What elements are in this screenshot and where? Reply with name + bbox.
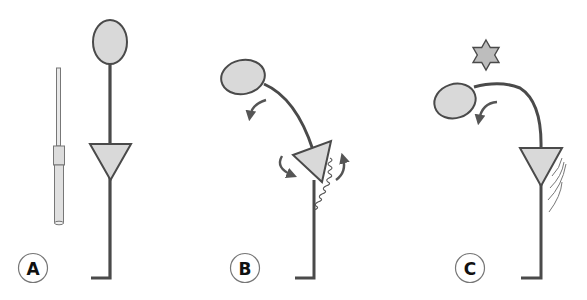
diagram-canvas: A B [0,0,587,300]
svg-text:A: A [26,259,40,279]
stem-c [474,84,541,278]
curved-arrow-icon [250,100,266,116]
curved-arrow-icon [336,158,344,180]
panel-b: B [218,56,344,283]
head-oval-c [430,78,480,123]
hinge-triangle-a [90,144,131,180]
curved-arrow-icon [280,156,292,175]
stem-b [264,84,314,278]
panel-label-b: B [231,254,260,283]
probe-rod-icon [54,68,65,225]
panel-label-c: C [456,254,485,283]
curved-arrow-icon [479,102,497,120]
head-oval-b [218,56,268,98]
panel-a: A [19,20,132,283]
panel-label-a: A [19,254,48,283]
svg-text:B: B [239,259,252,279]
hinge-triangle-c [520,148,562,186]
six-pointed-star-icon [473,40,499,70]
hinge-triangle-b [293,141,331,182]
panel-c: C [430,40,566,283]
svg-text:C: C [464,259,476,279]
head-oval-a [93,20,127,64]
